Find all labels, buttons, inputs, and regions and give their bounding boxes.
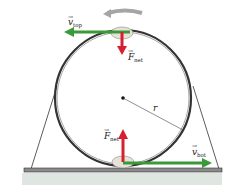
v-bot-arrowhead-icon [202, 158, 212, 168]
label-radius: r [153, 103, 158, 113]
left-support [31, 86, 57, 169]
svg-text:r: r [153, 103, 158, 113]
label-f-net-bottom: F net → [103, 126, 120, 142]
v-top-arrowhead-icon [64, 27, 74, 37]
svg-text:net: net [134, 57, 144, 63]
f-net-top-arrowhead-icon [117, 46, 127, 55]
label-v-top: v top → [68, 13, 83, 29]
label-v-bot: v bot → [192, 142, 207, 158]
ground-shadow [22, 173, 222, 185]
ground-track [24, 168, 222, 172]
loop-diagram: v top → F net → r F net → v bot → [0, 0, 234, 191]
f-net-bottom-arrowhead-icon [118, 129, 128, 139]
motion-direction-arrow [108, 11, 142, 14]
svg-text:net: net [110, 136, 120, 142]
label-f-net-top: F net → [127, 47, 144, 63]
svg-text:→: → [128, 47, 133, 54]
svg-text:→: → [68, 13, 73, 20]
svg-text:bot: bot [197, 152, 207, 158]
svg-text:top: top [73, 22, 83, 29]
svg-text:→: → [192, 142, 197, 149]
svg-text:→: → [104, 126, 109, 133]
motion-arrowhead-icon [103, 9, 111, 18]
